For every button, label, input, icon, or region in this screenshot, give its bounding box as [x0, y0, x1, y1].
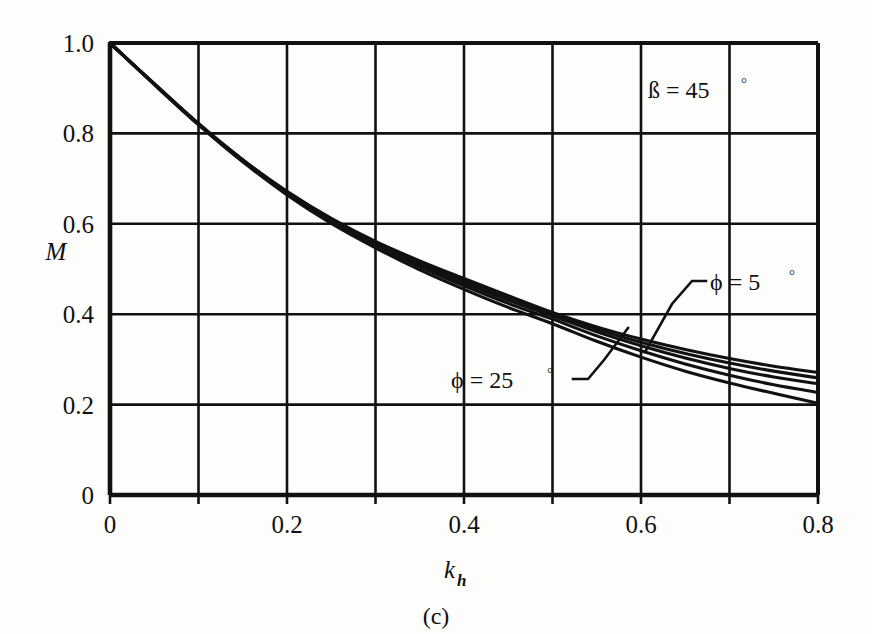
- x-axis-title-main: k: [444, 556, 456, 583]
- beta-degree-symbol: °: [741, 75, 747, 91]
- chart-canvas: 00.20.40.60.8 00.20.40.60.81.0 M k h ß =…: [0, 0, 872, 634]
- phi-upper-degree-symbol: °: [789, 267, 795, 283]
- x-axis-title: k h: [444, 556, 467, 590]
- y-tick-label: 0.6: [63, 211, 94, 238]
- y-tick-label: 0.8: [63, 120, 94, 147]
- y-axis-title: M: [45, 238, 68, 265]
- phi-upper-annotation: ϕ = 5 °: [710, 267, 795, 295]
- x-tick-label: 0.6: [625, 511, 656, 538]
- x-tick-label: 0: [104, 511, 117, 538]
- x-tick-label: 0.8: [802, 511, 833, 538]
- phi-lower-annotation: ϕ = 25 °: [451, 365, 553, 393]
- y-tick-label: 0.2: [63, 392, 94, 419]
- x-tick-label: 0.4: [448, 511, 480, 538]
- phi-upper-label: ϕ = 5: [710, 269, 760, 295]
- x-axis-tick-labels: 00.20.40.60.8: [104, 511, 834, 538]
- x-axis-title-subscript: h: [457, 571, 466, 590]
- y-tick-label: 0: [82, 482, 95, 509]
- phi-lower-label: ϕ = 25: [451, 367, 513, 393]
- y-tick-label: 0.4: [63, 301, 95, 328]
- beta-annotation-label: ß = 45: [648, 77, 710, 103]
- y-axis-tick-labels: 00.20.40.60.81.0: [63, 30, 95, 509]
- y-tick-label: 1.0: [63, 30, 94, 57]
- figure-root: 00.20.40.60.8 00.20.40.60.81.0 M k h ß =…: [0, 0, 872, 634]
- phi-lower-degree-symbol: °: [547, 365, 553, 381]
- beta-annotation: ß = 45 °: [648, 75, 747, 103]
- figure-caption: (c): [423, 603, 450, 629]
- x-tick-label: 0.2: [271, 511, 302, 538]
